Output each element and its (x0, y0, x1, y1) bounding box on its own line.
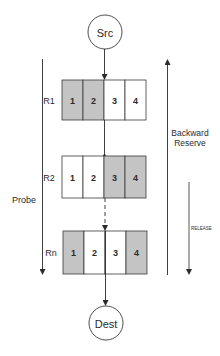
backward-reserve-arrow: Backward Reserve (168, 62, 209, 275)
router-r1: R1 1 2 3 4 (43, 80, 146, 120)
source-label: Src (97, 27, 114, 39)
cell-label: 1 (71, 248, 76, 258)
release-arrow: RELEASE (189, 182, 212, 272)
cell-label: 2 (91, 173, 96, 183)
destination-node: Dest (89, 306, 123, 340)
cell-label: 3 (113, 248, 118, 258)
diagram-canvas: Src R1 1 2 3 4 R2 1 2 3 4 Rn 1 2 (0, 0, 220, 356)
destination-label: Dest (95, 318, 118, 330)
router-label: Rn (45, 248, 57, 258)
router-rn: Rn 1 2 3 4 (45, 231, 147, 274)
cell-label: 1 (70, 173, 75, 183)
router-label: R1 (43, 96, 55, 106)
probe-label: Probe (12, 195, 36, 205)
cell-label: 4 (133, 173, 138, 183)
cell-label: 3 (112, 173, 117, 183)
cell-label: 4 (133, 96, 138, 106)
source-node: Src (88, 15, 122, 49)
cell-label: 2 (92, 248, 97, 258)
router-r2: R2 1 2 3 4 (43, 156, 146, 198)
probe-arrow: Probe (12, 59, 43, 272)
cell-label: 1 (70, 96, 75, 106)
release-label: RELEASE (191, 226, 212, 231)
router-label: R2 (43, 173, 55, 183)
cell-label: 3 (112, 96, 117, 106)
backward-reserve-label-line2: Reserve (174, 138, 206, 148)
cell-label: 2 (91, 96, 96, 106)
backward-reserve-label-line1: Backward (171, 128, 209, 138)
cell-label: 4 (134, 248, 139, 258)
